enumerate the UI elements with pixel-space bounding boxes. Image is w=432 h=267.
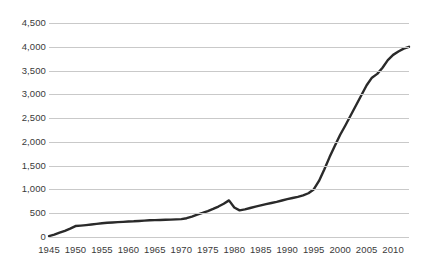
y-tick-label: 2,000: [2, 136, 46, 147]
x-tick-label: 1945: [38, 244, 60, 255]
gridline-500: [49, 213, 409, 214]
x-axis-labels: 1945195019551960196519701975198019851990…: [0, 244, 432, 260]
y-tick-label: 1,000: [2, 183, 46, 194]
y-tick-label: 500: [2, 207, 46, 218]
y-tick-label: 2,500: [2, 112, 46, 123]
gridline-2000: [49, 142, 409, 143]
y-tick-label: 4,000: [2, 41, 46, 52]
x-tick-label: 1995: [303, 244, 325, 255]
x-tick-label: 2010: [382, 244, 404, 255]
gridline-4000: [49, 47, 409, 48]
x-tick-label: 1985: [250, 244, 272, 255]
plot-area: [49, 23, 409, 237]
y-tick-label: 0: [2, 231, 46, 242]
y-tick-label: 3,500: [2, 65, 46, 76]
gridline-4500: [49, 23, 409, 24]
gridline-0: [49, 237, 409, 238]
y-tick-label: 3,000: [2, 88, 46, 99]
y-tick-label: 4,500: [2, 17, 46, 28]
x-tick-label: 2005: [356, 244, 378, 255]
gridline-1000: [49, 189, 409, 190]
data-line-series: [49, 23, 409, 237]
gridline-1500: [49, 166, 409, 167]
line-chart: 4,5004,0003,5003,0002,5002,0001,5001,000…: [0, 0, 432, 267]
gridline-3000: [49, 94, 409, 95]
x-tick-label: 1980: [224, 244, 246, 255]
gridline-2500: [49, 118, 409, 119]
x-tick-label: 1990: [276, 244, 298, 255]
y-axis-labels: 4,5004,0003,5003,0002,5002,0001,5001,000…: [0, 0, 46, 267]
gridline-3500: [49, 71, 409, 72]
x-tick-label: 1975: [197, 244, 219, 255]
x-tick-label: 1960: [118, 244, 140, 255]
y-tick-label: 1,500: [2, 160, 46, 171]
x-tick-label: 1950: [65, 244, 87, 255]
x-tick-label: 1955: [91, 244, 113, 255]
x-tick-label: 1965: [144, 244, 166, 255]
x-tick-label: 1970: [171, 244, 193, 255]
x-tick-label: 2000: [329, 244, 351, 255]
